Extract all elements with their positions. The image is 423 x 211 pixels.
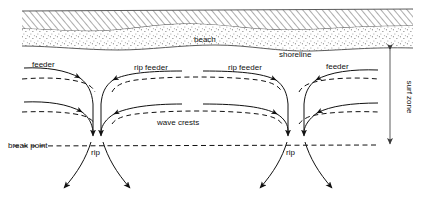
rip-current-diagram: beach shoreline wave crests: [0, 0, 423, 211]
wave-crest-upper-middle: [112, 77, 282, 92]
rip-head-arrow-left-outward: [64, 142, 91, 188]
rip-neck-right-inner-left: [277, 114, 288, 131]
rip-label-left: rip: [91, 148, 100, 157]
feeder-currents: [24, 68, 378, 114]
rip-neck-right-inner-right: [304, 113, 317, 131]
wave-crest-upper-left: [22, 78, 95, 92]
rip-feeder-label-left: rip feeder: [134, 63, 168, 72]
rip-head-arrow-right-inward: [305, 142, 332, 188]
rip-neck-left-inner-right: [101, 114, 114, 131]
diagram-canvas: beach shoreline wave crests: [0, 0, 423, 211]
rip-label-right: rip: [286, 148, 295, 157]
rip-channel-left: [80, 78, 114, 136]
feeder-arrow-left-lower: [24, 102, 82, 112]
rip-neck-right-wall-right: [304, 80, 316, 136]
break-point-line: [14, 145, 378, 146]
feeder-arrow-left-upper: [24, 68, 80, 78]
beach-label: beach: [194, 35, 216, 44]
shoreline-label: shoreline: [279, 50, 312, 59]
wave-crest-lines: [22, 77, 378, 124]
rip-head-arrow-left-inward: [103, 142, 130, 188]
wave-crests-label: wave crests: [156, 118, 199, 127]
rip-feeder-label-right: rip feeder: [228, 63, 262, 72]
rip-channel-right: [276, 80, 317, 136]
rip-feeder-arrow-midleft-upper: [113, 71, 182, 80]
rip-head-arrow-right-outward: [260, 142, 287, 188]
rip-neck-left-inner-left: [82, 112, 93, 131]
break-point-label: break point: [8, 141, 48, 150]
rip-neck-left-wall-right: [101, 80, 113, 136]
break-point-line-group: [14, 145, 378, 146]
rip-neck-right-wall-left: [276, 80, 288, 136]
feeder-label-left: feeder: [32, 60, 55, 69]
surf-zone-marker: surf zone: [390, 50, 414, 144]
feeder-label-right: feeder: [326, 62, 349, 71]
surf-zone-label: surf zone: [405, 81, 414, 114]
rip-head-right: [260, 142, 332, 188]
